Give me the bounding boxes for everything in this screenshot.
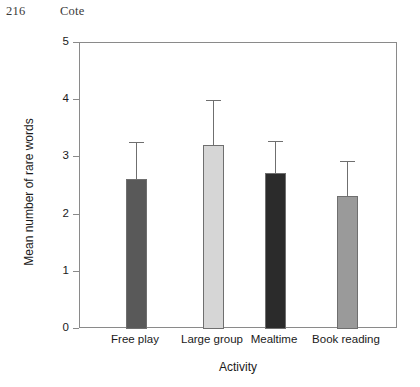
y-axis-tick-label: 4 xyxy=(52,93,69,105)
x-axis-title: Activity xyxy=(79,360,397,374)
error-bar-line xyxy=(213,100,214,145)
plot-area xyxy=(79,42,397,328)
x-axis-tick-label: Book reading xyxy=(301,334,391,346)
y-axis-tick-mark xyxy=(73,328,79,329)
error-bar-cap xyxy=(206,100,221,101)
y-axis-tick-label: 5 xyxy=(52,36,69,48)
error-bar-cap xyxy=(340,161,355,162)
y-axis-tick-label: 0 xyxy=(52,322,69,334)
y-axis-tick-label: 1 xyxy=(52,265,69,277)
bar xyxy=(126,179,147,329)
y-axis-tick-label: 2 xyxy=(52,208,69,220)
error-bar-cap xyxy=(129,142,144,143)
bar-chart-figure: Mean number of rare words 012345 Free pl… xyxy=(0,0,420,387)
error-bar-line xyxy=(347,161,348,196)
bar xyxy=(203,145,224,329)
y-axis-title: Mean number of rare words xyxy=(22,107,36,277)
error-bar-cap xyxy=(268,141,283,142)
error-bar-line xyxy=(136,142,137,179)
y-axis-tick-label: 3 xyxy=(52,150,69,162)
bar xyxy=(337,196,358,329)
error-bar-line xyxy=(275,141,276,174)
bar xyxy=(265,173,286,329)
